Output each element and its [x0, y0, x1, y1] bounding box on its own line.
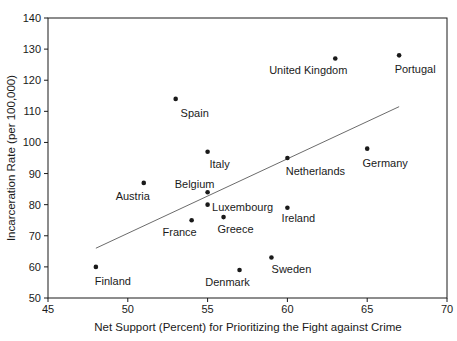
chart-canvas: 4550556065705060708090100110120130140Fin…: [0, 0, 457, 341]
data-point-ireland: [285, 205, 290, 210]
y-tick-label: 110: [23, 105, 41, 117]
data-label-denmark: Denmark: [205, 276, 250, 288]
data-point-united-kingdom: [333, 56, 338, 61]
data-label-austria: Austria: [116, 190, 151, 202]
y-tick-label: 120: [23, 74, 41, 86]
y-tick-label: 70: [29, 230, 41, 242]
data-label-greece: Greece: [218, 223, 254, 235]
data-point-portugal: [397, 53, 402, 58]
y-axis-title: Incarceration Rate (per 100,000): [5, 75, 17, 241]
data-label-luxembourg: Luxembourg: [212, 201, 273, 213]
x-tick-label: 60: [281, 303, 293, 315]
data-point-italy: [205, 149, 210, 154]
y-tick-label: 50: [29, 292, 41, 304]
x-tick-label: 55: [201, 303, 213, 315]
data-label-united-kingdom: United Kingdom: [269, 64, 347, 76]
data-point-spain: [173, 97, 178, 102]
data-point-austria: [141, 181, 146, 186]
y-tick-label: 130: [23, 43, 41, 55]
y-tick-label: 80: [29, 199, 41, 211]
data-label-ireland: Ireland: [282, 212, 316, 224]
scatter-figure: 4550556065705060708090100110120130140Fin…: [0, 0, 457, 341]
data-point-luxembourg: [205, 202, 210, 207]
data-point-france: [189, 218, 194, 223]
data-point-sweden: [269, 255, 274, 260]
data-label-sweden: Sweden: [272, 263, 312, 275]
data-point-netherlands: [285, 156, 290, 161]
x-axis-title: Net Support (Percent) for Prioritizing t…: [43, 321, 453, 333]
y-tick-label: 140: [23, 12, 41, 24]
data-point-germany: [365, 146, 370, 151]
data-label-portugal: Portugal: [395, 63, 436, 75]
x-tick-label: 70: [441, 303, 453, 315]
data-point-belgium: [205, 190, 210, 195]
data-label-france: France: [163, 226, 197, 238]
data-point-greece: [221, 215, 226, 220]
y-tick-label: 90: [29, 168, 41, 180]
data-label-finland: Finland: [95, 275, 131, 287]
x-tick-label: 65: [361, 303, 373, 315]
data-label-italy: Italy: [210, 158, 231, 170]
x-tick-label: 45: [42, 303, 54, 315]
data-label-netherlands: Netherlands: [286, 165, 346, 177]
data-label-spain: Spain: [181, 107, 209, 119]
y-tick-label: 100: [23, 136, 41, 148]
data-point-denmark: [237, 268, 242, 273]
x-tick-label: 50: [122, 303, 134, 315]
y-tick-label: 60: [29, 261, 41, 273]
data-point-finland: [94, 265, 99, 270]
data-label-germany: Germany: [363, 157, 409, 169]
data-label-belgium: Belgium: [175, 178, 215, 190]
